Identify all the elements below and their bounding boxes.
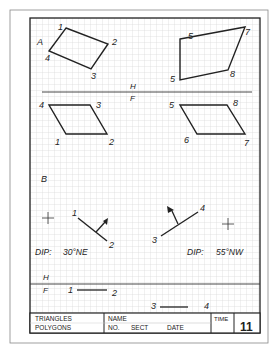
fold-label-h: H — [130, 82, 136, 91]
title-subject-2: POLYGONS — [35, 324, 72, 331]
date-label: DATE — [167, 324, 185, 331]
dip-label-1: DIP: — [35, 247, 52, 257]
point-label: 4 — [204, 301, 209, 311]
view-label-a: A — [36, 37, 43, 47]
point-label: 3 — [151, 301, 156, 311]
vertex-label: 1 — [55, 137, 60, 147]
dip-label-2: DIP: — [187, 247, 204, 257]
vertex-label: 8 — [230, 69, 235, 79]
vertex-label: 3 — [96, 100, 101, 110]
vertex-label: 6 — [184, 135, 189, 145]
title-subject-1: TRIANGLES — [35, 315, 73, 322]
vertex-label: 2 — [111, 37, 117, 47]
vertex-label: 8 — [233, 98, 238, 108]
dip-value-1: 30°NE — [63, 247, 88, 257]
name-label: NAME — [108, 315, 127, 322]
dip-value-2: 55°NW — [216, 247, 244, 257]
vertex-label: 1 — [58, 22, 63, 32]
point-label: 4 — [200, 203, 205, 213]
vertex-label: 4 — [45, 53, 50, 63]
point-label: 2 — [111, 288, 117, 298]
point-label: 2 — [108, 240, 114, 250]
section-label-b: B — [41, 174, 47, 184]
no-label: NO. — [108, 324, 120, 331]
point-label: 1 — [68, 285, 73, 295]
sect-label: SECT — [131, 324, 148, 331]
worksheet: A 1 2 3 4 5 7 8 5 H F 4 3 1 2 5 8 6 7 B … — [0, 0, 274, 353]
point-label: 1 — [72, 208, 77, 218]
point-label: 3 — [152, 235, 157, 245]
fold-label-h: H — [43, 273, 49, 282]
vertex-label: 2 — [108, 137, 114, 147]
vertex-label: 3 — [91, 71, 96, 81]
sheet-number: 11 — [240, 320, 253, 334]
time-label: TIME — [214, 316, 228, 322]
vertex-label: 4 — [39, 100, 44, 110]
grid-area — [30, 18, 260, 333]
